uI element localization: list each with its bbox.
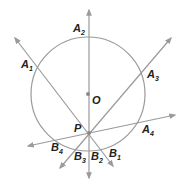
- label-P: P: [74, 122, 82, 134]
- label-A1: A1: [20, 58, 33, 72]
- label-A3: A3: [146, 68, 159, 82]
- label-A2: A2: [72, 22, 85, 36]
- label-A4: A4: [141, 123, 154, 137]
- label-B1: B1: [109, 147, 121, 161]
- center-point-o: [86, 92, 90, 96]
- label-B3: B3: [74, 150, 86, 164]
- point-p: [87, 131, 91, 135]
- geometry-diagram: A1A2A3A4OPB4B3B2B1: [0, 0, 182, 190]
- label-O: O: [92, 94, 101, 106]
- label-B4: B4: [51, 141, 63, 155]
- label-B2: B2: [91, 150, 103, 164]
